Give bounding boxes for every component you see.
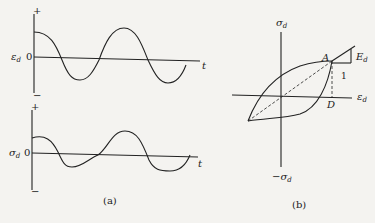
sigma-symbol: σ <box>276 17 283 28</box>
stress-zero-label: 0 <box>24 148 30 158</box>
strain-zero-label: 0 <box>26 52 32 62</box>
strain-plus-label: + <box>33 6 41 16</box>
stress-plus-label: + <box>31 102 39 112</box>
point-D-label: D <box>327 100 335 110</box>
stress-axis-label: σd <box>9 148 20 160</box>
strain-time-axis <box>34 57 200 61</box>
sigma-axis-label: σd <box>276 18 287 30</box>
stress-subscript: d <box>16 152 20 160</box>
point-A-label: A <box>322 53 329 63</box>
neg-sigma-axis-label: −σd <box>272 172 292 184</box>
stress-minus-label: − <box>31 187 39 197</box>
stress-time-label: t <box>198 159 202 169</box>
stress-curve <box>32 131 190 171</box>
modulus-subscript: d <box>363 56 367 64</box>
strain-minus-label: − <box>33 91 41 101</box>
modulus-label: Ed <box>356 52 368 64</box>
epsilon-subscript: d <box>362 96 366 104</box>
strain-curve <box>34 28 186 83</box>
stress-symbol: σ <box>9 147 16 158</box>
panel-b-caption: (b) <box>292 200 306 210</box>
strain-axis-label: εd <box>11 52 21 64</box>
slope-run-label: 1 <box>341 72 347 81</box>
strain-axis <box>232 95 352 98</box>
sigma-subscript: d <box>283 22 287 30</box>
epsilon-axis-label: εd <box>357 92 367 104</box>
neg-sigma-symbol: −σ <box>272 171 287 182</box>
strain-time-label: t <box>202 61 206 71</box>
neg-sigma-subscript: d <box>287 176 291 184</box>
diagram-canvas <box>0 0 375 223</box>
panel-a-caption: (a) <box>103 196 117 206</box>
strain-subscript: d <box>16 56 20 64</box>
stress-time-axis <box>32 153 198 157</box>
